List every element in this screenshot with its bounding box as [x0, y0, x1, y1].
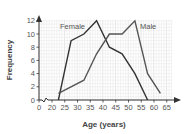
frequency-polygon-chart: 020253035404550556065024681012 Female Ma…	[0, 0, 187, 134]
x-tick-label: 40	[99, 103, 107, 112]
x-tick-label: 0	[37, 103, 41, 112]
x-tick-label: 65	[163, 103, 171, 112]
y-tick-label: 0	[31, 96, 35, 105]
x-tick-label: 20	[48, 103, 56, 112]
x-tick-label: 50	[124, 103, 132, 112]
y-tick-label: 12	[27, 16, 35, 25]
chart-axes	[36, 15, 181, 103]
x-axis-arrow-icon	[174, 97, 181, 103]
chart-grid	[39, 20, 172, 100]
y-tick-label: 10	[27, 30, 35, 39]
x-tick-label: 60	[150, 103, 158, 112]
y-tick-label: 2	[31, 82, 35, 91]
x-axis-title: Age (years)	[82, 120, 126, 129]
x-tick-label: 25	[61, 103, 69, 112]
female-series-label: Female	[60, 22, 85, 31]
x-tick-label: 30	[73, 103, 81, 112]
x-tick-label: 45	[112, 103, 120, 112]
y-tick-label: 4	[31, 69, 35, 78]
x-tick-label: 35	[86, 103, 94, 112]
x-tick-label: 55	[137, 103, 145, 112]
male-series-label: Male	[140, 22, 156, 31]
y-axis-title: Frequency	[5, 39, 14, 80]
y-tick-label: 8	[31, 43, 35, 52]
y-tick-label: 6	[31, 56, 35, 65]
